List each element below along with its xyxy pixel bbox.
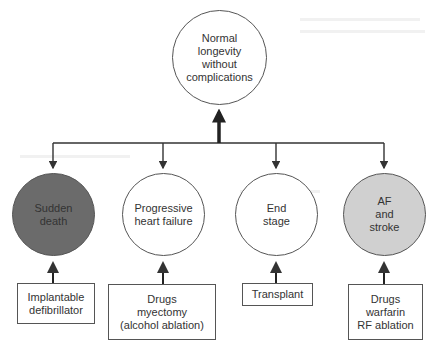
node-label: Progressive heart failure <box>134 202 192 228</box>
node-normal-longevity: Normal longevity without complications <box>172 10 267 105</box>
treatment-transplant: Transplant <box>242 283 313 306</box>
treatment-label: Implantable defibrillator <box>28 291 85 317</box>
treatment-label: Transplant <box>252 288 304 301</box>
node-end-stage: End stage <box>235 173 318 256</box>
node-progressive-heart-failure: Progressive heart failure <box>122 173 205 256</box>
node-label: Normal longevity without complications <box>186 32 253 84</box>
treatment-drugs-warfarin-rf: Drugs warfarin RF ablation <box>348 284 423 340</box>
node-sudden-death: Sudden death <box>12 173 95 256</box>
treatment-label: Drugs warfarin RF ablation <box>357 293 413 332</box>
node-af-and-stroke: AF and stroke <box>343 173 426 256</box>
treatment-drugs-myectomy: Drugs myectomy (alcohol ablation) <box>108 284 216 340</box>
hcm-outcome-diagram: Normal longevity without complications S… <box>0 0 436 347</box>
node-label: End stage <box>263 202 290 228</box>
node-label: Sudden death <box>35 202 73 228</box>
treatment-label: Drugs myectomy (alcohol ablation) <box>120 293 204 332</box>
node-label: AF and stroke <box>370 195 400 234</box>
treatment-implantable-defibrillator: Implantable defibrillator <box>17 283 95 324</box>
